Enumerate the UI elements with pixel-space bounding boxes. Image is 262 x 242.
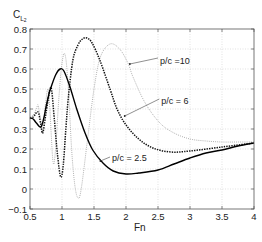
annotation-arrow-tip (129, 63, 131, 65)
annotation-arrow (100, 157, 110, 161)
annotation-arrow-tip (124, 115, 126, 117)
x-tick-label: 2 (123, 211, 128, 222)
annotation-label: p/c =10 (160, 56, 190, 66)
chart: CL2 Fn 0.511.522.533.54−0.100.10.20.30.4… (0, 0, 262, 242)
x-tick-label: 4 (251, 211, 256, 222)
y-tick-label: 0.3 (14, 124, 27, 135)
x-tick-label: 1 (59, 211, 64, 222)
annotation-arrow (130, 58, 158, 64)
annotation-label: p/c = 2.5 (112, 153, 147, 163)
series-line-pc10 (30, 44, 254, 199)
y-tick-label: 0.6 (14, 64, 27, 75)
plot-area: 0.511.522.533.54−0.100.10.20.30.40.50.60… (0, 0, 262, 242)
y-tick-label: −0.1 (8, 204, 27, 215)
annotation-label: p/c = 6 (161, 96, 188, 106)
x-tick-label: 3.5 (215, 211, 228, 222)
y-tick-label: 0.4 (14, 104, 27, 115)
y-tick-label: 0.7 (14, 44, 27, 55)
x-tick-label: 1.5 (87, 211, 100, 222)
x-tick-label: 3 (187, 211, 192, 222)
y-tick-label: 0.1 (14, 164, 27, 175)
annotation-arrow (125, 99, 160, 116)
annotation-arrow-tip (100, 160, 102, 162)
y-tick-label: 0.8 (14, 24, 27, 35)
y-tick-label: 0.2 (14, 144, 27, 155)
y-tick-label: 0 (22, 184, 27, 195)
x-tick-label: 2.5 (151, 211, 164, 222)
y-tick-label: 0.5 (14, 84, 27, 95)
